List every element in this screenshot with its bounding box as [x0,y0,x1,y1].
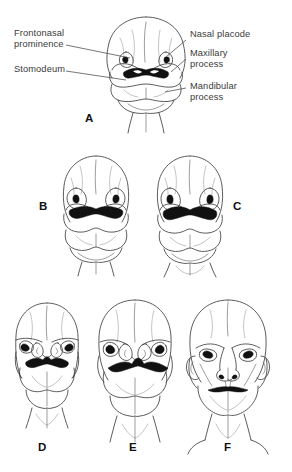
panel-letter-E: E [129,441,137,453]
panel-letter-F: F [224,441,231,453]
label-stomodeum: Stomodeum [14,64,65,75]
figure-embryonic-face-development: .o{fill:none;stroke:#3f3f3f;stroke-width… [0,0,292,472]
panel-letter-A: A [85,112,94,124]
cropped-caption-sliver [0,466,292,472]
label-frontonasal-prominence: Frontonasal prominence [14,28,64,51]
panel-letter-B: B [39,200,48,212]
label-maxillary-process: Maxillary process [190,48,228,71]
panel-letter-C: C [233,200,242,212]
label-nasal-placode: Nasal placode [190,29,250,40]
label-mandibular-process: Mandibular process [190,81,237,104]
panel-letter-D: D [38,441,47,453]
